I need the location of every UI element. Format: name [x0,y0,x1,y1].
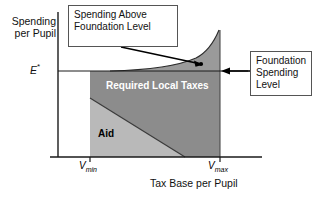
x-tick-label-vmax-var: V [208,160,215,171]
x-tick-label-vmin-var: V [79,160,86,171]
x-tick-label-vmin: Vmin [79,160,97,174]
callout-above-leader-line [121,47,201,64]
region-label-aid: Aid [98,128,114,139]
callout-above-leader-dot [199,62,203,66]
x-tick-label-vmax-sub: max [215,166,228,173]
y-axis-label: Spending per Pupil [4,16,56,40]
callout-foundation-arrowhead [221,67,230,74]
foundation-formula-figure: Spending per Pupil E* Vmin Vmax Tax Base… [0,0,330,199]
x-tick-label-vmin-sub: min [86,166,97,173]
callout-spending-above-foundation: Spending Above Foundation Level [68,5,178,47]
x-axis-label: Tax Base per Pupil [150,178,238,190]
callout-foundation-spending-level: Foundation Spending Level [250,51,312,96]
x-tick-label-vmax: Vmax [208,160,228,174]
y-tick-label-estar-superscript: * [37,62,40,71]
y-tick-label-estar-value: E [30,64,37,76]
y-tick-label-estar: E* [30,63,40,76]
region-label-required-local-taxes: Required Local Taxes [106,80,209,91]
